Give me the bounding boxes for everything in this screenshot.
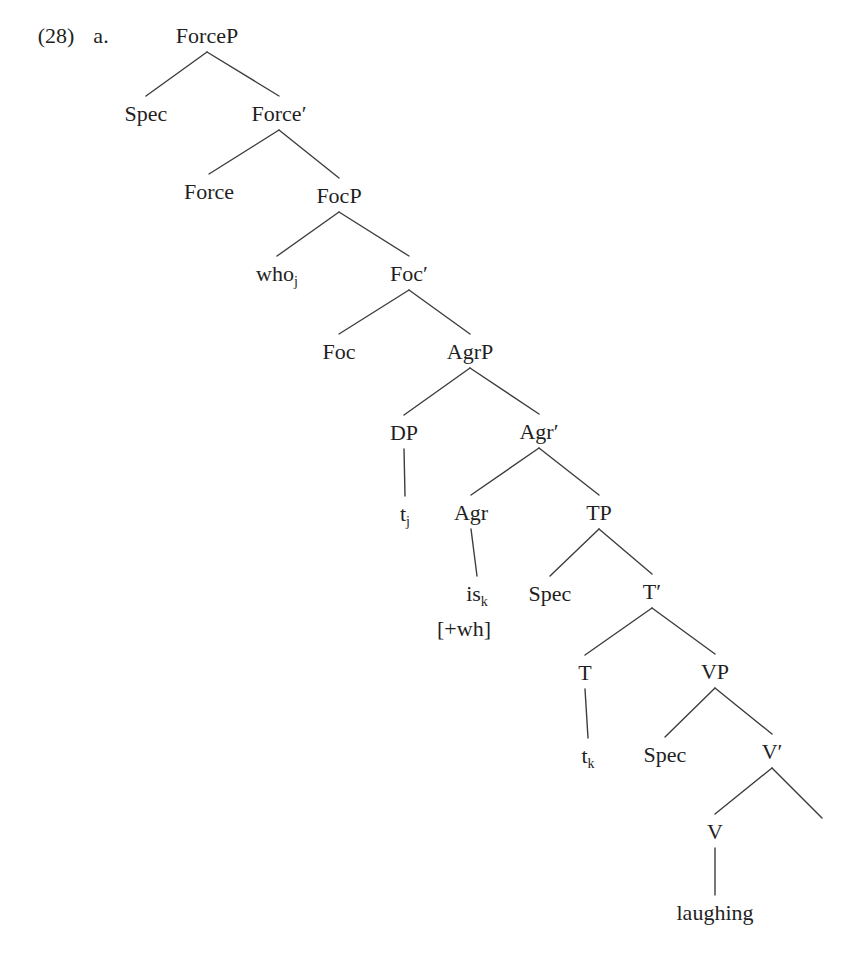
tree-node-focp: FocP bbox=[316, 185, 361, 207]
tree-node-forcep: ForceP bbox=[176, 25, 238, 47]
tree-node-dp: DP bbox=[390, 422, 418, 444]
tree-node-spec-t: Spec bbox=[529, 583, 572, 605]
tree-node-v: V bbox=[707, 821, 723, 843]
tree-node-t-k: tk bbox=[581, 745, 594, 767]
syntax-tree-figure: (28) a. ForcePSpecForce′ForceFocPwhojFoc… bbox=[0, 0, 854, 957]
tree-node-force-bar: Force′ bbox=[252, 103, 307, 125]
tree-node-foc-bar: Foc′ bbox=[390, 263, 428, 285]
tree-node-t-bar: T′ bbox=[643, 581, 661, 603]
tree-node-tp: TP bbox=[586, 502, 612, 524]
tree-node-who-j: whoj bbox=[256, 263, 298, 285]
tree-node-agr-bar: Agr′ bbox=[519, 421, 558, 443]
tree-node-laughing: laughing bbox=[677, 902, 754, 924]
tree-node-vp: VP bbox=[701, 661, 729, 683]
tree-node-agr: Agr bbox=[454, 502, 488, 524]
tree-node-v-bar: V′ bbox=[762, 741, 783, 763]
tree-node-spec-force: Spec bbox=[125, 103, 168, 125]
tree-node-is-k: isk bbox=[466, 583, 488, 605]
tree-node-agrp: AgrP bbox=[447, 341, 493, 363]
tree-node-t: T bbox=[578, 662, 591, 684]
tree-edges bbox=[0, 0, 854, 957]
tree-node-foc: Foc bbox=[323, 341, 356, 363]
tree-node-force: Force bbox=[184, 181, 234, 203]
tree-node-t-j: tj bbox=[400, 503, 410, 525]
tree-node-spec-v: Spec bbox=[644, 744, 687, 766]
tree-node-wh-feature: [+wh] bbox=[437, 618, 491, 640]
